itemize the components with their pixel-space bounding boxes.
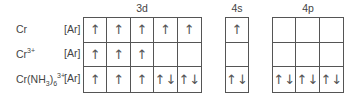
orbital-box: ↑↓ [320, 67, 343, 92]
orbital-box [273, 43, 296, 68]
core-ar: [Ar] [64, 47, 80, 59]
orbital-box: ↑ [178, 18, 201, 43]
orbital-box [320, 43, 343, 68]
species-label: Cr [16, 23, 27, 35]
header-4p: 4p [272, 2, 344, 14]
orbital-box: ↑↓ [296, 67, 319, 92]
orbital-grid-3d: ↑↑↑↑↑↑↑↑↑↑↑↑↓↑↓ [83, 17, 202, 93]
orbital-box [178, 43, 201, 68]
species-label: Cr [16, 48, 27, 60]
header-4s: 4s [225, 2, 249, 14]
orbital-grid-4s: ↑↑↓ [225, 17, 249, 93]
orbital-box [226, 43, 248, 68]
orbital-box: ↑↓ [178, 67, 201, 92]
orbital-box: ↑↓ [226, 67, 248, 92]
species-cr-nh3-6-3plus: Cr(NH3)63+ [16, 72, 65, 87]
subscript: 6 [53, 80, 57, 87]
orbital-box [320, 18, 343, 43]
orbital-box: ↑ [107, 67, 130, 92]
orbital-box [273, 18, 296, 43]
orbital-box: ↑ [84, 67, 107, 92]
charge: 3+ [27, 47, 35, 54]
header-3d: 3d [83, 2, 201, 14]
core-ar: [Ar] [64, 72, 80, 84]
orbital-box [154, 43, 177, 68]
species-cr: Cr [16, 23, 27, 35]
orbital-box: ↑ [107, 18, 130, 43]
orbital-box: ↑ [154, 18, 177, 43]
core-ar: [Ar] [64, 23, 80, 35]
orbital-box: ↑ [226, 18, 248, 43]
orbital-box [296, 43, 319, 68]
orbital-box: ↑ [131, 18, 154, 43]
orbital-box: ↑↓ [154, 67, 177, 92]
orbital-box: ↑ [84, 18, 107, 43]
species-label: Cr(NH [16, 73, 46, 85]
orbital-box: ↑ [107, 43, 130, 68]
orbital-box: ↑ [131, 43, 154, 68]
species-cr3plus: Cr3+ [16, 47, 35, 60]
orbital-box [296, 18, 319, 43]
orbital-box: ↑ [131, 67, 154, 92]
orbital-box: ↑↓ [273, 67, 296, 92]
orbital-grid-4p: ↑↓↑↓↑↓ [272, 17, 344, 93]
orbital-box: ↑ [84, 43, 107, 68]
